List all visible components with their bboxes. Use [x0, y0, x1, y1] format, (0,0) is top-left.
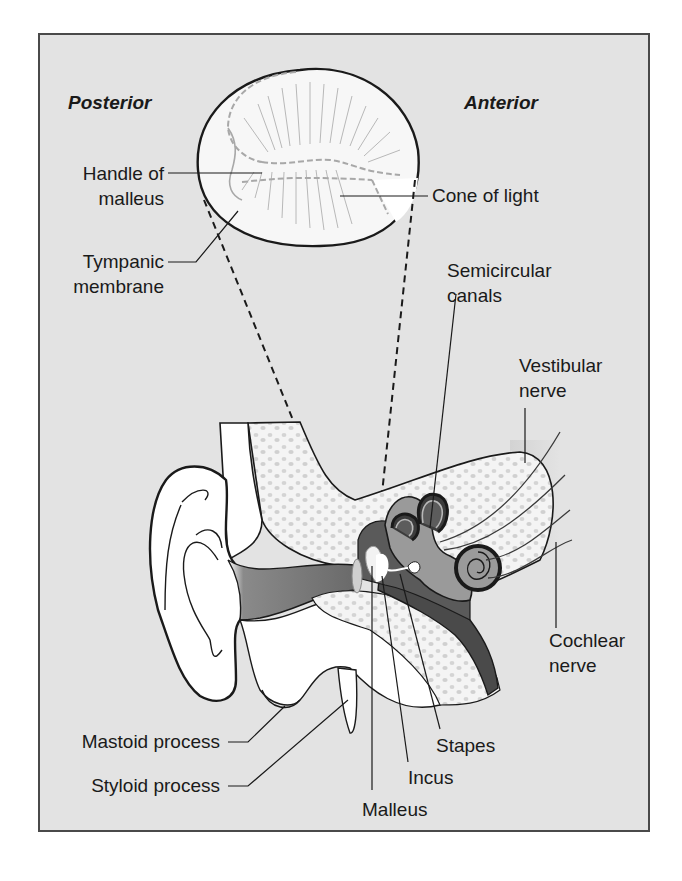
label-line: Stapes [436, 733, 495, 758]
label-line: canals [447, 283, 552, 308]
label-semicircular-canals: Semicircular canals [447, 258, 552, 308]
label-line: Cochlear [549, 628, 625, 653]
label-handle-of-malleus: Handle of malleus [83, 161, 164, 211]
label-line: Styloid process [91, 773, 220, 798]
label-line: Vestibular [519, 353, 602, 378]
label-incus: Incus [408, 765, 453, 790]
label-cochlear-nerve: Cochlear nerve [549, 628, 625, 678]
label-line: Cone of light [432, 183, 539, 208]
label-mastoid-process: Mastoid process [82, 729, 220, 754]
label-line: membrane [73, 274, 164, 299]
label-line: nerve [519, 378, 602, 403]
label-line: Incus [408, 765, 453, 790]
label-line: Mastoid process [82, 729, 220, 754]
label-line: nerve [549, 653, 625, 678]
label-line: Malleus [362, 797, 427, 822]
label-styloid-process: Styloid process [91, 773, 220, 798]
label-line: Handle of [83, 161, 164, 186]
label-malleus: Malleus [362, 797, 427, 822]
anterior-label: Anterior [464, 90, 538, 115]
label-line: Semicircular [447, 258, 552, 283]
label-tympanic-membrane: Tympanic membrane [73, 249, 164, 299]
label-line: Tympanic [73, 249, 164, 274]
posterior-label: Posterior [68, 90, 151, 115]
label-vestibular-nerve: Vestibular nerve [519, 353, 602, 403]
label-line: malleus [83, 186, 164, 211]
label-cone-of-light: Cone of light [432, 183, 539, 208]
label-stapes: Stapes [436, 733, 495, 758]
